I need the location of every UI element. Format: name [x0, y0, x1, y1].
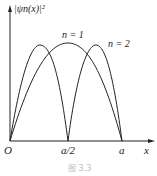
figure-caption: 图 3.3 [68, 165, 91, 173]
tick-origin: O [4, 145, 12, 156]
tick-half-a: a/2 [61, 145, 75, 156]
y-axis-arrow-icon [8, 5, 12, 12]
x-axis-label: x [144, 145, 149, 156]
legend-n1: n = 1 [62, 30, 84, 40]
legend-n2: n = 2 [108, 39, 130, 49]
plot-area [0, 0, 157, 176]
y-axis-label: |ψn(x)|² [14, 4, 45, 14]
tick-a: a [119, 145, 125, 156]
x-axis-arrow-icon [148, 139, 155, 143]
